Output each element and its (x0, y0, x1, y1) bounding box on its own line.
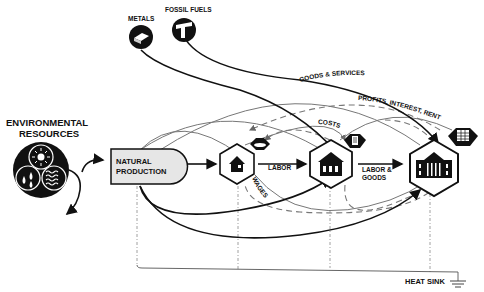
fossil-fuels-icon (172, 18, 196, 42)
labor-goods-label-2: GOODS (362, 174, 387, 181)
secondary-flows (140, 104, 452, 211)
ground-icon (450, 281, 466, 287)
government-office-icon (448, 128, 478, 146)
environmental-resources-label-2: RESOURCES (19, 128, 79, 139)
household-possessions-icon (250, 138, 270, 150)
environmental-resources-label-1: ENVIRONMENTAL (6, 117, 88, 128)
labor-label: LABOR (268, 164, 291, 171)
labor-goods-label-1: LABOR & (362, 166, 392, 173)
metals-icon (129, 25, 153, 49)
natural-production-label-1: NATURAL (116, 157, 152, 166)
household-node (220, 144, 254, 184)
natural-production-label-2: PRODUCTION (116, 167, 166, 176)
heat-sink-label: HEAT SINK (405, 277, 445, 286)
environmental-resources-icon (13, 142, 69, 198)
fossil-fuels-label: FOSSIL FUELS (165, 6, 212, 13)
heat-sink-lines (137, 186, 458, 281)
metals-label: METALS (128, 15, 155, 22)
energy-economy-diagram: HEAT SINK METALS FOSS (0, 0, 484, 292)
goods-services-label: GOODS & SERVICES (298, 69, 365, 83)
business-document-icon (344, 134, 366, 148)
